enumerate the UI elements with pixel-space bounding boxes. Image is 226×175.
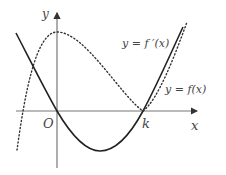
origin-label: O — [43, 116, 54, 131]
x-axis-label: x — [191, 118, 199, 133]
k-label: k — [142, 116, 150, 131]
function-graph: y x O k y = f ′(x) y = f(x) — [0, 0, 226, 175]
derivative-curve-label: y = f ′(x) — [121, 37, 169, 50]
y-axis-label: y — [41, 7, 49, 21]
function-curve-label: y = f(x) — [164, 83, 206, 96]
